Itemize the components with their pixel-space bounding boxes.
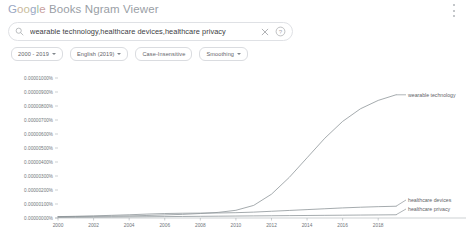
logo-letter-g: G <box>8 3 17 15</box>
chevron-down-icon <box>117 53 121 55</box>
y-axis-tick-label: 0.00000100% <box>24 202 53 207</box>
help-circle-icon[interactable]: ? <box>275 26 286 37</box>
search-icon <box>15 27 24 36</box>
y-axis-tick-label: 0.00000300% <box>24 174 53 179</box>
svg-text:?: ? <box>279 29 283 35</box>
x-axis-ticks: 2000200220042006200820102012201420162018 <box>53 218 384 228</box>
filter-chip-row: 2000 - 2019 English (2019) Case-Insensit… <box>11 47 248 61</box>
series-lines <box>58 95 406 218</box>
chevron-down-icon <box>237 53 241 55</box>
x-axis-tick-label: 2014 <box>302 223 313 228</box>
y-axis-tick-label: 0.00000500% <box>24 146 53 151</box>
chip-date-range[interactable]: 2000 - 2019 <box>11 47 63 61</box>
app-header: Google Books Ngram Viewer <box>0 0 469 20</box>
chip-corpus-label: English (2019) <box>77 51 114 57</box>
series-leader-line <box>396 209 406 215</box>
x-axis-tick-label: 2010 <box>231 223 242 228</box>
chip-case-sensitivity[interactable]: Case-Insensitive <box>135 47 192 61</box>
y-axis-tick-label: 0.00000700% <box>24 118 53 123</box>
x-axis-tick-label: 2002 <box>88 223 99 228</box>
page-title-rest: Books Ngram Viewer <box>46 3 159 15</box>
ngram-chart: 0.00001000%0.00000900%0.00000800%0.00000… <box>0 70 469 237</box>
y-axis-tick-label: 0.00000200% <box>24 188 53 193</box>
kebab-menu-icon[interactable] <box>448 4 460 17</box>
series-label[interactable]: wearable technology <box>408 92 456 98</box>
x-axis-tick-label: 2000 <box>53 223 64 228</box>
chip-corpus[interactable]: English (2019) <box>70 47 128 61</box>
x-axis-tick-label: 2012 <box>266 223 277 228</box>
series-label[interactable]: healthcare devices <box>408 197 452 203</box>
y-axis-tick-label: 0.00000400% <box>24 160 53 165</box>
close-icon[interactable] <box>260 27 270 37</box>
y-axis-tick-label: 0.00000600% <box>24 132 53 137</box>
ngram-chart-svg: 0.00001000%0.00000900%0.00000800%0.00000… <box>0 70 469 237</box>
y-axis-ticks: 0.00001000%0.00000900%0.00000800%0.00000… <box>24 76 58 221</box>
y-axis-tick-label: 0.00000900% <box>24 90 53 95</box>
series-line[interactable] <box>58 95 396 217</box>
search-input[interactable] <box>30 27 260 36</box>
chip-date-range-label: 2000 - 2019 <box>18 51 49 57</box>
kebab-dot-1 <box>453 4 455 6</box>
series-leader-line <box>396 200 406 206</box>
x-axis-tick-label: 2006 <box>159 223 170 228</box>
series-label[interactable]: healthcare privacy <box>408 206 451 212</box>
x-axis-tick-label: 2008 <box>195 223 206 228</box>
chevron-down-icon <box>52 53 56 55</box>
x-axis-tick-label: 2018 <box>373 223 384 228</box>
series-labels: wearable technologyhealthcare deviceshea… <box>408 92 456 212</box>
chip-case-sensitivity-label: Case-Insensitive <box>142 51 185 57</box>
page-title: Google Books Ngram Viewer <box>8 3 159 15</box>
chip-smoothing[interactable]: Smoothing <box>199 47 248 61</box>
x-axis-tick-label: 2016 <box>337 223 348 228</box>
y-axis-tick-label: 0.00000000% <box>24 216 53 221</box>
y-axis-tick-label: 0.00000800% <box>24 104 53 109</box>
x-axis-tick-label: 2004 <box>124 223 135 228</box>
y-axis-tick-label: 0.00001000% <box>24 76 53 81</box>
search-bar[interactable]: ? <box>8 22 293 41</box>
kebab-dot-3 <box>453 15 455 17</box>
chip-smoothing-label: Smoothing <box>206 51 234 57</box>
kebab-dot-2 <box>453 10 455 12</box>
